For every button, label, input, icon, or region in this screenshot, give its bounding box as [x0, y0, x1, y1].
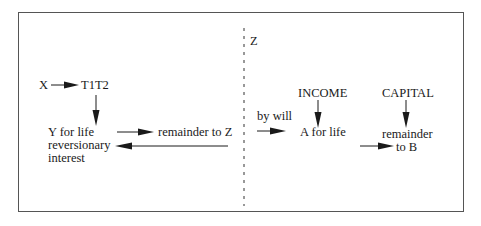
settlor-label: X — [39, 79, 48, 92]
remainder-to-z-label: remainder to Z — [158, 126, 232, 139]
arrow-to-b-icon — [360, 143, 394, 150]
arrow-capital-down-icon — [403, 100, 410, 128]
arrows-layer — [0, 0, 481, 226]
arrow-income-down-icon — [315, 100, 322, 128]
income-beneficiary-label: A for life — [300, 126, 346, 139]
arrow-by-will-icon — [257, 128, 286, 135]
arrow-to-remainder-z-icon — [117, 129, 154, 136]
divider-label-z: Z — [250, 35, 258, 48]
arrow-x-to-trustees-icon — [51, 82, 79, 89]
income-label: INCOME — [298, 87, 347, 100]
by-will-label: by will — [257, 110, 292, 123]
arrow-trustees-down-icon — [93, 95, 100, 126]
capital-label: CAPITAL — [382, 87, 434, 100]
capital-beneficiary-label: to B — [396, 141, 417, 154]
arrow-back-to-reversionary-icon — [115, 143, 228, 150]
trustees-label: T1T2 — [81, 79, 109, 92]
life-tenant-line-3: interest — [48, 152, 85, 165]
